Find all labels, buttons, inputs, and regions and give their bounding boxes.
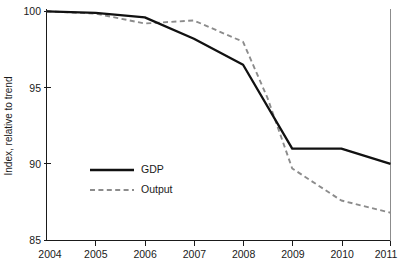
y-tick-label-85: 85 [29, 234, 41, 246]
legend-label-gdp: GDP [141, 163, 164, 175]
x-tick-label-2005: 2005 [84, 248, 108, 260]
series-line-output [47, 11, 391, 212]
legend-label-output: Output [141, 183, 173, 195]
x-axis-ticks: 2004 2005 2006 2007 2008 2009 2010 2011 [38, 234, 397, 260]
chart-legend: GDP Output [90, 163, 173, 195]
y-axis-title: Index, relative to trend [3, 77, 14, 176]
series-line-gdp [47, 11, 391, 164]
y-tick-label-90: 90 [29, 158, 41, 170]
x-tick-label-2010: 2010 [331, 248, 355, 260]
x-tick-label-2009: 2009 [281, 248, 305, 260]
y-tick-label-95: 95 [29, 82, 41, 94]
chart-container: Index, relative to trend 100 95 90 85 [0, 0, 405, 266]
x-tick-label-2006: 2006 [133, 248, 157, 260]
x-tick-label-2011: 2011 [375, 248, 398, 260]
x-tick-label-2004: 2004 [38, 248, 62, 260]
y-tick-label-100: 100 [23, 5, 41, 17]
y-axis-title-text: Index, relative to trend [3, 77, 14, 176]
x-tick-label-2007: 2007 [183, 248, 207, 260]
line-chart: Index, relative to trend 100 95 90 85 [0, 0, 405, 266]
x-tick-label-2008: 2008 [232, 248, 256, 260]
